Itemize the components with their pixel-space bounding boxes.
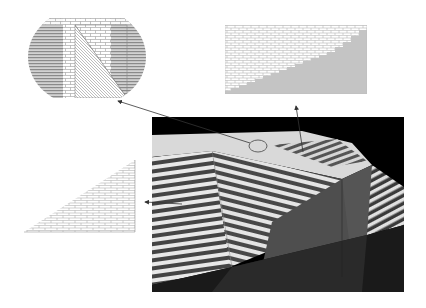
rectangle-texture-graphic [225,25,367,94]
ellipse-texture-graphic [28,15,146,99]
rendered-scene-graphic [152,117,404,292]
triangle-texture-graphic [24,160,136,233]
texture-panel-triangle [24,160,136,233]
texture-panel-rectangle [225,25,367,94]
rendered-scene [152,117,404,292]
texture-panel-ellipse [28,15,146,99]
